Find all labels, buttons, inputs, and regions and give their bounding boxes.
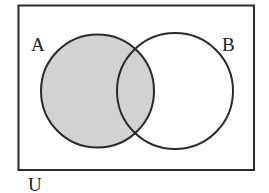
venn-diagram (0, 0, 269, 193)
set-a-circle (41, 35, 154, 148)
set-b-label: B (222, 35, 235, 54)
set-a-label: A (31, 35, 45, 54)
universe-label: U (28, 175, 42, 193)
